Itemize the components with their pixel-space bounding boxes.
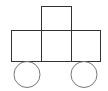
diagram-canvas <box>0 0 108 91</box>
square-top <box>42 7 72 31</box>
square-middle <box>42 31 72 62</box>
left-wheel <box>14 62 40 88</box>
right-wheel <box>71 62 97 88</box>
square-right <box>72 31 101 62</box>
wheels <box>14 62 97 88</box>
vehicle-diagram <box>0 0 108 91</box>
square-left <box>12 31 42 62</box>
body-squares <box>12 7 101 62</box>
